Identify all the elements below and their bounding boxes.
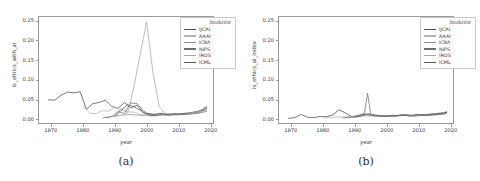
- legend-swatch-icon: [184, 55, 196, 56]
- legend-item-label: ICML: [199, 59, 211, 66]
- legend-item-label: NIPS: [199, 46, 210, 53]
- legend-swatch-icon: [424, 42, 436, 43]
- legend-entries: IJCAIAAAIICRANIPSIROSICML: [184, 26, 232, 66]
- legend-entries: IJCAIAAAIICRANIPSIROSICML: [424, 26, 472, 66]
- x-tick-mark: [323, 124, 324, 127]
- x-tick-mark: [115, 124, 116, 127]
- panel-b-caption: (b): [278, 155, 454, 168]
- legend-swatch-icon: [424, 35, 436, 36]
- legend-item-label: ICRA: [199, 39, 210, 46]
- x-tick-mark: [451, 124, 452, 127]
- legend-swatch-icon: [184, 29, 196, 30]
- panel-b-xlabel: year: [278, 139, 454, 145]
- legend-item-label: AAAI: [199, 33, 211, 40]
- panel-b-ylabel: is_ethics_ai_index: [251, 17, 257, 113]
- legend-item-icra[interactable]: ICRA: [424, 39, 472, 46]
- y-tick-label: 0.05: [240, 97, 274, 102]
- panel-a-legend: booktitle IJCAIAAAIICRANIPSIROSICML: [180, 17, 236, 69]
- legend-swatch-icon: [424, 55, 436, 56]
- y-tick-label: 0.20: [240, 38, 274, 43]
- y-tick-label: 0.25: [0, 18, 34, 23]
- legend-item-iros[interactable]: IROS: [184, 52, 232, 59]
- panel-a-caption: (a): [38, 155, 214, 168]
- x-tick-label: 2020: [200, 128, 222, 133]
- y-tick-label: 0.25: [240, 18, 274, 23]
- x-tick-label: 2010: [408, 128, 430, 133]
- legend-item-ijcai[interactable]: IJCAI: [424, 26, 472, 33]
- legend-item-label: IROS: [439, 52, 451, 59]
- legend-item-label: ICRA: [439, 39, 450, 46]
- x-tick-label: 1990: [344, 128, 366, 133]
- legend-swatch-icon: [424, 62, 436, 63]
- legend-swatch-icon: [184, 42, 196, 43]
- y-tick-label: 0.10: [240, 77, 274, 82]
- x-tick-label: 1990: [104, 128, 126, 133]
- x-tick-label: 2000: [136, 128, 158, 133]
- x-tick-mark: [147, 124, 148, 127]
- x-tick-mark: [211, 124, 212, 127]
- x-tick-label: 1970: [280, 128, 302, 133]
- x-tick-label: 1970: [40, 128, 62, 133]
- legend-item-label: NIPS: [439, 46, 450, 53]
- panel-b-y-axis: 0.000.050.100.150.200.25: [240, 0, 276, 181]
- x-tick-label: 2020: [440, 128, 462, 133]
- x-tick-label: 2010: [168, 128, 190, 133]
- x-tick-mark: [291, 124, 292, 127]
- figure-two-panel-line-charts: 0.000.050.100.150.200.25 197019801990200…: [0, 0, 480, 181]
- legend-item-icra[interactable]: ICRA: [184, 39, 232, 46]
- x-tick-mark: [83, 124, 84, 127]
- panel-a-ylabel: is_ethics_with_ai: [11, 17, 17, 113]
- legend-item-aaai[interactable]: AAAI: [184, 33, 232, 40]
- y-tick-label: 0.20: [0, 38, 34, 43]
- y-tick-label: 0.00: [240, 117, 274, 122]
- x-tick-mark: [179, 124, 180, 127]
- legend-item-label: AAAI: [439, 33, 451, 40]
- x-tick-mark: [419, 124, 420, 127]
- x-tick-mark: [355, 124, 356, 127]
- legend-item-icml[interactable]: ICML: [424, 59, 472, 66]
- panel-a-y-axis: 0.000.050.100.150.200.25: [0, 0, 36, 181]
- x-tick-label: 2000: [376, 128, 398, 133]
- y-tick-label: 0.00: [0, 117, 34, 122]
- legend-item-nips[interactable]: NIPS: [184, 46, 232, 53]
- panel-a: 0.000.050.100.150.200.25 197019801990200…: [0, 0, 240, 181]
- x-tick-mark: [387, 124, 388, 127]
- legend-swatch-icon: [184, 48, 196, 49]
- legend-item-ijcai[interactable]: IJCAI: [184, 26, 232, 33]
- panel-b: 0.000.050.100.150.200.25 197019801990200…: [240, 0, 480, 181]
- y-tick-label: 0.15: [240, 58, 274, 63]
- x-tick-mark: [51, 124, 52, 127]
- legend-item-iros[interactable]: IROS: [424, 52, 472, 59]
- y-tick-label: 0.15: [0, 58, 34, 63]
- y-tick-label: 0.05: [0, 97, 34, 102]
- legend-item-label: IJCAI: [199, 26, 210, 33]
- y-tick-label: 0.10: [0, 77, 34, 82]
- panel-b-legend: booktitle IJCAIAAAIICRANIPSIROSICML: [420, 17, 476, 69]
- legend-item-icml[interactable]: ICML: [184, 59, 232, 66]
- legend-swatch-icon: [184, 35, 196, 36]
- panel-a-xlabel: year: [38, 139, 214, 145]
- legend-item-label: IROS: [199, 52, 211, 59]
- legend-swatch-icon: [184, 62, 196, 63]
- legend-item-label: ICML: [439, 59, 451, 66]
- legend-item-nips[interactable]: NIPS: [424, 46, 472, 53]
- legend-item-aaai[interactable]: AAAI: [424, 33, 472, 40]
- legend-swatch-icon: [424, 29, 436, 30]
- x-tick-label: 1980: [72, 128, 94, 133]
- legend-item-label: IJCAI: [439, 26, 450, 33]
- legend-swatch-icon: [424, 48, 436, 49]
- x-tick-label: 1980: [312, 128, 334, 133]
